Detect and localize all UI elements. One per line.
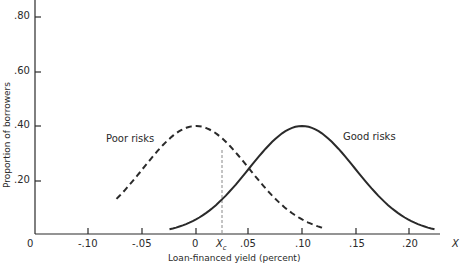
y-tick-80: .80 (14, 10, 30, 21)
y-axis-label: Proportion of borrowers (2, 82, 12, 188)
y-tick-40: .40 (14, 119, 30, 130)
origin-label: 0 (27, 238, 33, 249)
x-tick-05: .05 (240, 238, 256, 249)
x-tick-0: 0 (192, 238, 198, 249)
poor-risks-label: Poor risks (106, 133, 154, 144)
x-tick-15: .15 (349, 238, 365, 249)
x-tick-xc: Xc (216, 238, 227, 252)
x-tick-20: .20 (402, 238, 418, 249)
x-tick-m10: -.10 (78, 238, 98, 249)
x-axis-label: Loan-financed yield (percent) (168, 253, 300, 263)
x-tick-m05: -.05 (132, 238, 152, 249)
y-tick-60: .60 (14, 65, 30, 76)
good-risks-label: Good risks (343, 131, 396, 142)
x-tick-10: .10 (295, 238, 311, 249)
y-tick-20: .20 (14, 174, 30, 185)
x-axis-end-label: X (452, 238, 459, 249)
